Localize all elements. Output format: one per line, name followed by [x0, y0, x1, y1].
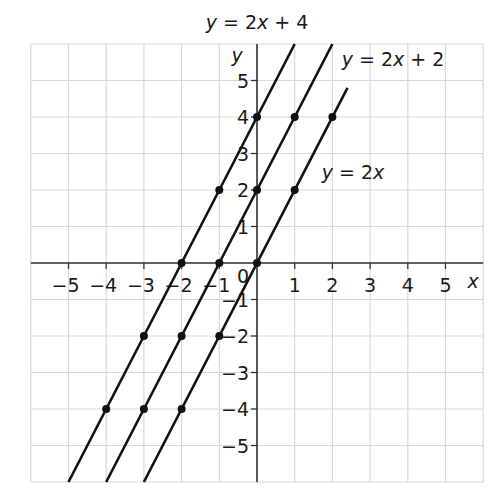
data-point — [178, 405, 186, 413]
line-equation-label: y = 2x — [321, 161, 385, 183]
x-tick-label: −3 — [127, 274, 155, 296]
data-point — [253, 113, 261, 121]
linear-graphs-chart: −5−4−3−2−11234554321−1−2−3−4−50xy y = 2x… — [0, 0, 499, 494]
data-point — [291, 113, 299, 121]
x-tick-label: 1 — [289, 274, 301, 296]
data-point — [102, 405, 110, 413]
tick-labels: −5−4−3−2−11234554321−1−2−3−4−50xy — [51, 44, 479, 457]
data-point — [215, 259, 223, 267]
data-point — [253, 259, 261, 267]
y-tick-label: −2 — [221, 325, 249, 347]
data-point — [140, 332, 148, 340]
x-axis-label: x — [467, 270, 480, 292]
line-equation-label: y = 2x + 4 — [205, 11, 309, 33]
y-tick-label: −4 — [221, 398, 249, 420]
y-tick-label: 5 — [237, 70, 249, 92]
data-point — [291, 186, 299, 194]
data-point — [140, 405, 148, 413]
y-tick-label: −3 — [221, 362, 249, 384]
y-tick-label: 4 — [237, 106, 249, 128]
y-tick-label: −5 — [221, 435, 249, 457]
data-point — [215, 186, 223, 194]
data-point — [178, 259, 186, 267]
y-tick-label: 2 — [237, 179, 249, 201]
x-tick-label: −5 — [51, 274, 79, 296]
data-point — [215, 332, 223, 340]
data-point — [178, 332, 186, 340]
y-axis-label: y — [230, 44, 243, 66]
data-point — [328, 113, 336, 121]
x-tick-label: 2 — [326, 274, 338, 296]
x-tick-label: 4 — [402, 274, 414, 296]
line-equation-label: y = 2x + 2 — [341, 48, 445, 70]
x-tick-label: 5 — [439, 274, 451, 296]
data-point — [253, 186, 261, 194]
x-tick-label: −4 — [89, 274, 117, 296]
x-tick-label: 3 — [364, 274, 376, 296]
